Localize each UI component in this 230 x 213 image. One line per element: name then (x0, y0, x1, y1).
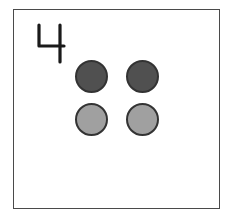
dot-dark-2 (126, 60, 159, 93)
dot-light-1 (75, 103, 108, 136)
dot-dark-1 (75, 60, 108, 93)
number-card: 4 (13, 9, 220, 209)
numeral-four (36, 22, 66, 64)
dot-light-2 (126, 103, 159, 136)
